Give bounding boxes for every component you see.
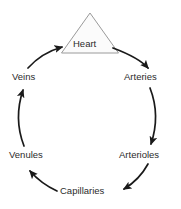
flow-arrow-capillaries-to-venules — [30, 171, 57, 191]
node-label-capillaries: Capillaries — [60, 186, 104, 196]
flow-arrow-heart-to-arteries — [113, 48, 148, 68]
circulation-flow-graphic — [0, 0, 181, 209]
node-label-veins: Veins — [12, 72, 35, 82]
node-label-arterioles: Arterioles — [119, 150, 159, 160]
flow-arrow-venules-to-veins — [19, 90, 24, 146]
flow-arrow-arterioles-to-capillaries — [124, 164, 148, 189]
node-label-arteries: Arteries — [124, 72, 157, 82]
flow-arrow-arteries-to-arterioles — [150, 88, 155, 144]
node-label-heart: Heart — [73, 39, 96, 49]
circulation-diagram: Heart Arteries Arterioles Capillaries Ve… — [0, 0, 181, 209]
flow-arrow-veins-to-heart — [28, 47, 62, 68]
node-label-venules: Venules — [9, 150, 43, 160]
